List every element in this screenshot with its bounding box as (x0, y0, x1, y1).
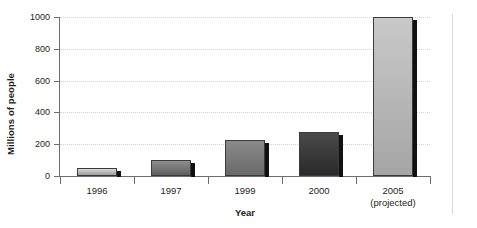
y-tick-label: 1000 (8, 13, 50, 22)
x-tick-label: 1999 (208, 185, 282, 197)
y-tick-mark (54, 81, 60, 82)
x-tick-mark (134, 177, 135, 184)
x-axis-line (59, 176, 431, 177)
bar-shadow (265, 143, 269, 177)
x-tick-mark (60, 177, 61, 184)
bar-fill (373, 17, 413, 176)
x-tick-mark (430, 177, 431, 184)
x-tick-label: 2005(projected) (356, 185, 430, 209)
x-tick-label: 1996 (60, 185, 134, 197)
bar (77, 168, 121, 176)
x-tick-mark (282, 177, 283, 184)
y-tick-mark (54, 17, 60, 18)
bar (299, 132, 343, 176)
bar-fill (299, 132, 339, 176)
bar-fill (77, 168, 117, 176)
y-tick-mark (54, 112, 60, 113)
x-tick-label: 2000 (282, 185, 356, 197)
bar (151, 160, 195, 176)
bar-shadow (339, 135, 343, 177)
bar-shadow (413, 20, 417, 177)
bar-fill (225, 140, 265, 176)
bar (373, 17, 417, 176)
bar-fill (151, 160, 191, 176)
y-tick-label: 800 (8, 45, 50, 54)
x-tick-sublabel: (projected) (356, 197, 430, 209)
x-tick-mark (356, 177, 357, 184)
plot-area (60, 17, 430, 176)
y-tick-mark (54, 49, 60, 50)
y-tick-label: 400 (8, 108, 50, 117)
y-tick-label: 600 (8, 77, 50, 86)
right-margin-rule (452, 14, 453, 214)
bar-chart-figure: Millions of people Year 0200400600800100… (0, 0, 477, 228)
y-tick-mark (54, 144, 60, 145)
x-tick-mark (208, 177, 209, 184)
bar (225, 140, 269, 176)
bar-shadow (117, 171, 121, 177)
bar-shadow (191, 163, 195, 177)
x-tick-label: 1997 (134, 185, 208, 197)
y-tick-label: 200 (8, 140, 50, 149)
y-tick-label: 0 (8, 172, 50, 181)
